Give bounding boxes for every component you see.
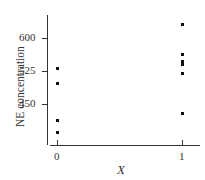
- data-point: [181, 53, 184, 56]
- x-tick: [182, 140, 183, 145]
- y-tick: [42, 71, 47, 72]
- data-point: [56, 131, 59, 134]
- x-axis-label: X: [117, 162, 125, 178]
- data-point: [181, 23, 184, 26]
- x-tick-label: 1: [179, 150, 185, 162]
- data-point: [181, 63, 184, 66]
- y-axis: [47, 15, 48, 145]
- x-axis: [50, 145, 200, 146]
- y-tick-label: 600: [19, 31, 36, 43]
- y-tick: [42, 104, 47, 105]
- x-tick: [57, 140, 58, 145]
- data-point: [56, 67, 59, 70]
- y-tick: [42, 38, 47, 39]
- data-point: [56, 82, 59, 85]
- data-point: [181, 72, 184, 75]
- x-tick-label: 0: [54, 150, 60, 162]
- data-point: [181, 112, 184, 115]
- data-point: [56, 119, 59, 122]
- y-axis-label: NE concentration: [14, 46, 26, 127]
